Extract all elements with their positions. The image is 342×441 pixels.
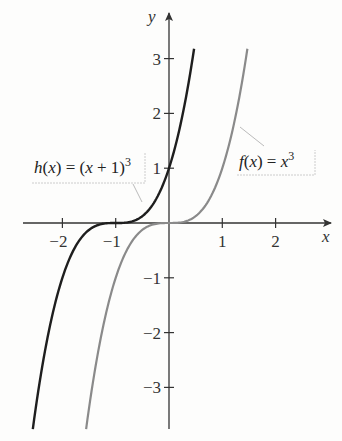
y-tick-label: 3: [153, 50, 162, 69]
y-tick-label: −2: [143, 324, 161, 343]
y-tick-label: 1: [153, 159, 162, 178]
x-tick-label: 2: [271, 232, 280, 251]
f-leader-line: [240, 127, 264, 146]
x-tick-label: 1: [218, 232, 227, 251]
x-axis-label: x: [321, 227, 330, 246]
y-axis-label: y: [146, 7, 156, 26]
y-tick-label: 2: [153, 104, 162, 123]
x-tick-label: −2: [49, 232, 67, 251]
x-tick-label: −1: [103, 232, 121, 251]
f-function-label: f(x) = x3: [239, 149, 294, 171]
y-tick-label: −1: [143, 269, 161, 288]
y-tick-label: −3: [143, 378, 161, 397]
cubic-graph: −2−112 −3−2−1123 x y h(x) = (x + 1)3 f(x…: [0, 0, 342, 441]
h-leader-line: [133, 184, 142, 202]
h-function-label: h(x) = (x + 1)3: [34, 155, 131, 177]
